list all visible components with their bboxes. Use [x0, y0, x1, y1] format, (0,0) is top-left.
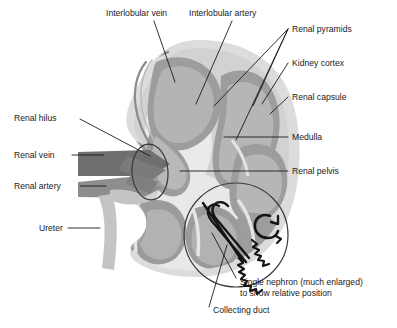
label-collecting-duct: Collecting duct — [213, 305, 270, 315]
label-kidney-cortex: Kidney cortex — [292, 58, 345, 68]
kidney-diagram-page: Interlobular vein Interlobular artery Re… — [0, 0, 397, 328]
label-medulla: Medulla — [292, 132, 322, 142]
label-renal-pyramids: Renal pyramids — [292, 24, 352, 34]
label-interlobular-artery: Interlobular artery — [189, 8, 257, 18]
kidney-cross-section-figure: Interlobular vein Interlobular artery Re… — [0, 0, 397, 328]
label-renal-hilus: Renal hilus — [14, 113, 57, 123]
label-renal-artery: Renal artery — [14, 181, 62, 191]
label-ureter: Ureter — [39, 223, 63, 233]
label-single-nephron-line1: Single nephron (much enlarged) — [240, 277, 363, 287]
label-single-nephron-line2: to show relative position — [240, 288, 332, 298]
label-renal-capsule: Renal capsule — [292, 92, 347, 102]
label-renal-vein: Renal vein — [14, 150, 55, 160]
label-renal-pelvis: Renal pelvis — [292, 166, 339, 176]
label-interlobular-vein: Interlobular vein — [106, 8, 167, 18]
